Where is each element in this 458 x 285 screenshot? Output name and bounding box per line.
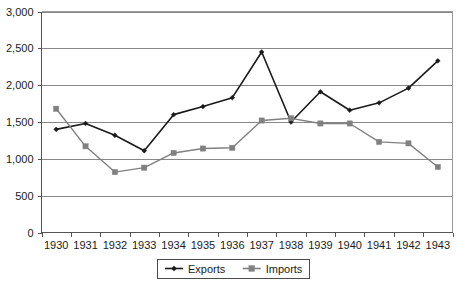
data-point-marker [288, 116, 293, 121]
x-tick-label: 1931 [73, 239, 97, 251]
x-tick-label: 1934 [161, 239, 185, 251]
legend-label: Imports [266, 263, 303, 275]
y-tick-label: 3,000 [6, 6, 34, 18]
chart-legend: ExportsImports [158, 260, 310, 279]
x-tick-label: 1930 [44, 239, 68, 251]
data-point-marker [171, 150, 176, 155]
x-tick-label: 1942 [396, 239, 420, 251]
chart-canvas: 05001,0001,5002,0002,5003,000 1930193119… [0, 0, 458, 285]
data-point-marker [142, 165, 147, 170]
y-tick-label: 0 [27, 227, 33, 239]
legend-label: Exports [188, 263, 226, 275]
x-tick-label: 1940 [338, 239, 362, 251]
data-point-marker [406, 141, 411, 146]
x-tick-label: 1932 [103, 239, 127, 251]
line-chart: 05001,0001,5002,0002,5003,000 1930193119… [0, 0, 458, 285]
data-point-marker [230, 145, 235, 150]
y-tick-label: 2,500 [6, 42, 34, 54]
data-point-marker [347, 121, 352, 126]
y-tick-label: 500 [15, 190, 33, 202]
y-tick-label: 1,000 [6, 153, 34, 165]
x-tick-label: 1939 [308, 239, 332, 251]
x-tick-label: 1943 [426, 239, 450, 251]
x-tick-label: 1933 [132, 239, 156, 251]
x-tick-label: 1935 [191, 239, 215, 251]
x-tick-label: 1941 [367, 239, 391, 251]
x-tick-label: 1938 [279, 239, 303, 251]
data-point-marker [112, 169, 117, 174]
data-point-marker [318, 121, 323, 126]
data-point-marker [83, 144, 88, 149]
data-point-marker [377, 139, 382, 144]
x-tick-label: 1937 [249, 239, 273, 251]
data-point-marker [200, 146, 205, 151]
data-point-marker [259, 118, 264, 123]
data-point-marker [435, 164, 440, 169]
y-tick-label: 1,500 [6, 116, 34, 128]
data-point-marker [54, 106, 59, 111]
x-tick-label: 1936 [220, 239, 244, 251]
data-point-marker [249, 266, 255, 272]
y-tick-label: 2,000 [6, 79, 34, 91]
